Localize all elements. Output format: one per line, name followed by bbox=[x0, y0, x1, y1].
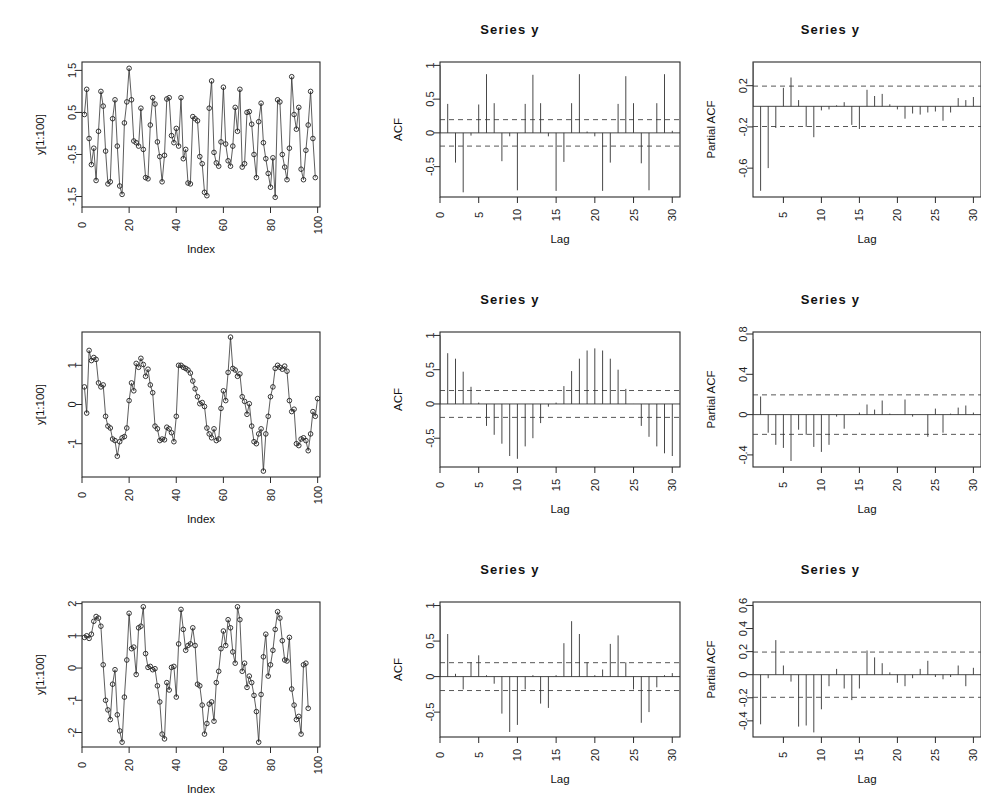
plot-grid: -1.5-0.50.51.5020406080100Indexy[1:100]S… bbox=[0, 0, 981, 809]
x-tick-label: 25 bbox=[929, 479, 941, 491]
y-tick-label: 0 bbox=[424, 130, 436, 136]
y-tick-label: -0.5 bbox=[424, 157, 436, 176]
plot-canvas: -0.500.51051015202530LagACF bbox=[340, 540, 680, 809]
y-tick-label: 1.5 bbox=[66, 63, 78, 78]
y-tick-label: 0 bbox=[424, 401, 436, 407]
y-tick-label: -0.6 bbox=[737, 159, 749, 178]
x-tick-label: 25 bbox=[929, 749, 941, 761]
y-tick-label: -0.5 bbox=[66, 145, 78, 164]
x-tick-label: 15 bbox=[853, 749, 865, 761]
y-tick-label: 0 bbox=[424, 674, 436, 680]
y-tick-label: -1 bbox=[66, 439, 78, 449]
y-tick-label: 0.4 bbox=[737, 367, 749, 382]
panel-row1-acf: Series y-0.500.51051015202530LagACF bbox=[340, 0, 680, 270]
y-axis-title: Partial ACF bbox=[705, 370, 717, 428]
y-tick-label: 0.5 bbox=[424, 362, 436, 377]
x-tick-label: 5 bbox=[777, 212, 789, 218]
x-tick-label: 40 bbox=[170, 219, 182, 231]
x-tick-label: 10 bbox=[511, 479, 523, 491]
plot-box bbox=[753, 332, 981, 467]
x-tick-label: 40 bbox=[170, 489, 182, 501]
x-tick-label: 0 bbox=[434, 752, 446, 758]
x-tick-label: 5 bbox=[473, 212, 485, 218]
y-axis-title: y[1:100] bbox=[34, 384, 46, 425]
y-tick-label: -0.2 bbox=[737, 117, 749, 136]
y-axis-title: ACF bbox=[392, 118, 404, 141]
y-tick-label: 0.5 bbox=[424, 91, 436, 106]
x-axis-title: Lag bbox=[857, 503, 876, 515]
x-tick-label: 20 bbox=[891, 479, 903, 491]
x-tick-label: 30 bbox=[967, 479, 979, 491]
y-tick-label: -0.4 bbox=[737, 445, 749, 464]
y-tick-label: 0 bbox=[737, 672, 749, 678]
x-tick-label: 5 bbox=[473, 752, 485, 758]
x-tick-label: 25 bbox=[929, 209, 941, 221]
x-tick-label: 0 bbox=[434, 482, 446, 488]
y-tick-label: 0.4 bbox=[737, 621, 749, 636]
y-tick-label: 0.5 bbox=[424, 633, 436, 648]
x-tick-label: 25 bbox=[628, 479, 640, 491]
panel-row3-acf: Series y-0.500.51051015202530LagACF bbox=[340, 540, 680, 809]
x-axis-title: Lag bbox=[550, 233, 569, 245]
series-line bbox=[84, 68, 315, 197]
x-axis-title: Index bbox=[187, 783, 215, 795]
x-tick-label: 25 bbox=[628, 749, 640, 761]
x-tick-label: 30 bbox=[967, 209, 979, 221]
y-tick-label: 1 bbox=[424, 602, 436, 608]
plot-canvas: -0.500.51051015202530LagACF bbox=[340, 0, 680, 270]
x-tick-label: 5 bbox=[473, 482, 485, 488]
plot-canvas: -2-1012020406080100Indexy[1:100] bbox=[0, 540, 340, 809]
x-tick-label: 15 bbox=[550, 209, 562, 221]
y-tick-label: -0.2 bbox=[737, 688, 749, 707]
data-point bbox=[315, 0, 320, 2]
x-tick-label: 15 bbox=[853, 479, 865, 491]
x-tick-label: 30 bbox=[666, 749, 678, 761]
panel-row3-series: -2-1012020406080100Indexy[1:100] bbox=[0, 540, 340, 809]
y-tick-label: 0.2 bbox=[737, 78, 749, 93]
x-tick-label: 0 bbox=[434, 212, 446, 218]
x-tick-label: 20 bbox=[589, 209, 601, 221]
x-axis-title: Lag bbox=[857, 233, 876, 245]
plot-box bbox=[440, 62, 680, 197]
plot-canvas: -0.500.51051015202530LagACF bbox=[340, 270, 680, 540]
panel-row2-series: -101020406080100Indexy[1:100] bbox=[0, 270, 340, 540]
y-tick-label: 0 bbox=[66, 401, 78, 407]
y-tick-label: -0.5 bbox=[424, 429, 436, 448]
x-tick-label: 10 bbox=[511, 209, 523, 221]
x-tick-label: 20 bbox=[589, 479, 601, 491]
panel-row2-acf: Series y-0.500.51051015202530LagACF bbox=[340, 270, 680, 540]
y-axis-title: Partial ACF bbox=[705, 100, 717, 158]
y-tick-label: 1 bbox=[66, 633, 78, 639]
x-tick-label: 10 bbox=[815, 209, 827, 221]
y-axis-title: y[1:100] bbox=[34, 114, 46, 155]
y-tick-label: 1 bbox=[66, 362, 78, 368]
plot-box bbox=[440, 602, 680, 737]
y-tick-label: -2 bbox=[66, 728, 78, 738]
x-tick-label: 5 bbox=[777, 482, 789, 488]
y-tick-label: 0.2 bbox=[737, 644, 749, 659]
x-tick-label: 20 bbox=[123, 759, 135, 771]
x-tick-label: 30 bbox=[666, 479, 678, 491]
panel-row1-pacf: Series y-0.6-0.20.251015202530LagPartial… bbox=[680, 0, 981, 270]
x-axis-title: Lag bbox=[550, 503, 569, 515]
x-tick-label: 100 bbox=[312, 216, 324, 234]
y-tick-label: 1 bbox=[424, 62, 436, 68]
x-tick-label: 0 bbox=[76, 492, 88, 498]
x-tick-label: 15 bbox=[550, 479, 562, 491]
y-tick-label: -0.4 bbox=[737, 711, 749, 730]
x-axis-title: Index bbox=[187, 243, 215, 255]
x-tick-label: 25 bbox=[628, 209, 640, 221]
x-tick-label: 15 bbox=[853, 209, 865, 221]
y-tick-label: -1.5 bbox=[66, 187, 78, 206]
x-tick-label: 80 bbox=[265, 759, 277, 771]
x-tick-label: 20 bbox=[589, 749, 601, 761]
x-tick-label: 80 bbox=[265, 489, 277, 501]
plot-canvas: -101020406080100Indexy[1:100] bbox=[0, 270, 340, 540]
plot-canvas: -0.4-0.200.20.40.651015202530LagPartial … bbox=[680, 540, 981, 809]
panel-row2-pacf: Series y-0.400.40.851015202530LagPartial… bbox=[680, 270, 981, 540]
plot-canvas: -0.6-0.20.251015202530LagPartial ACF bbox=[680, 0, 981, 270]
x-tick-label: 10 bbox=[511, 749, 523, 761]
x-tick-label: 0 bbox=[76, 762, 88, 768]
x-tick-label: 20 bbox=[123, 489, 135, 501]
y-tick-label: -0.5 bbox=[424, 703, 436, 722]
